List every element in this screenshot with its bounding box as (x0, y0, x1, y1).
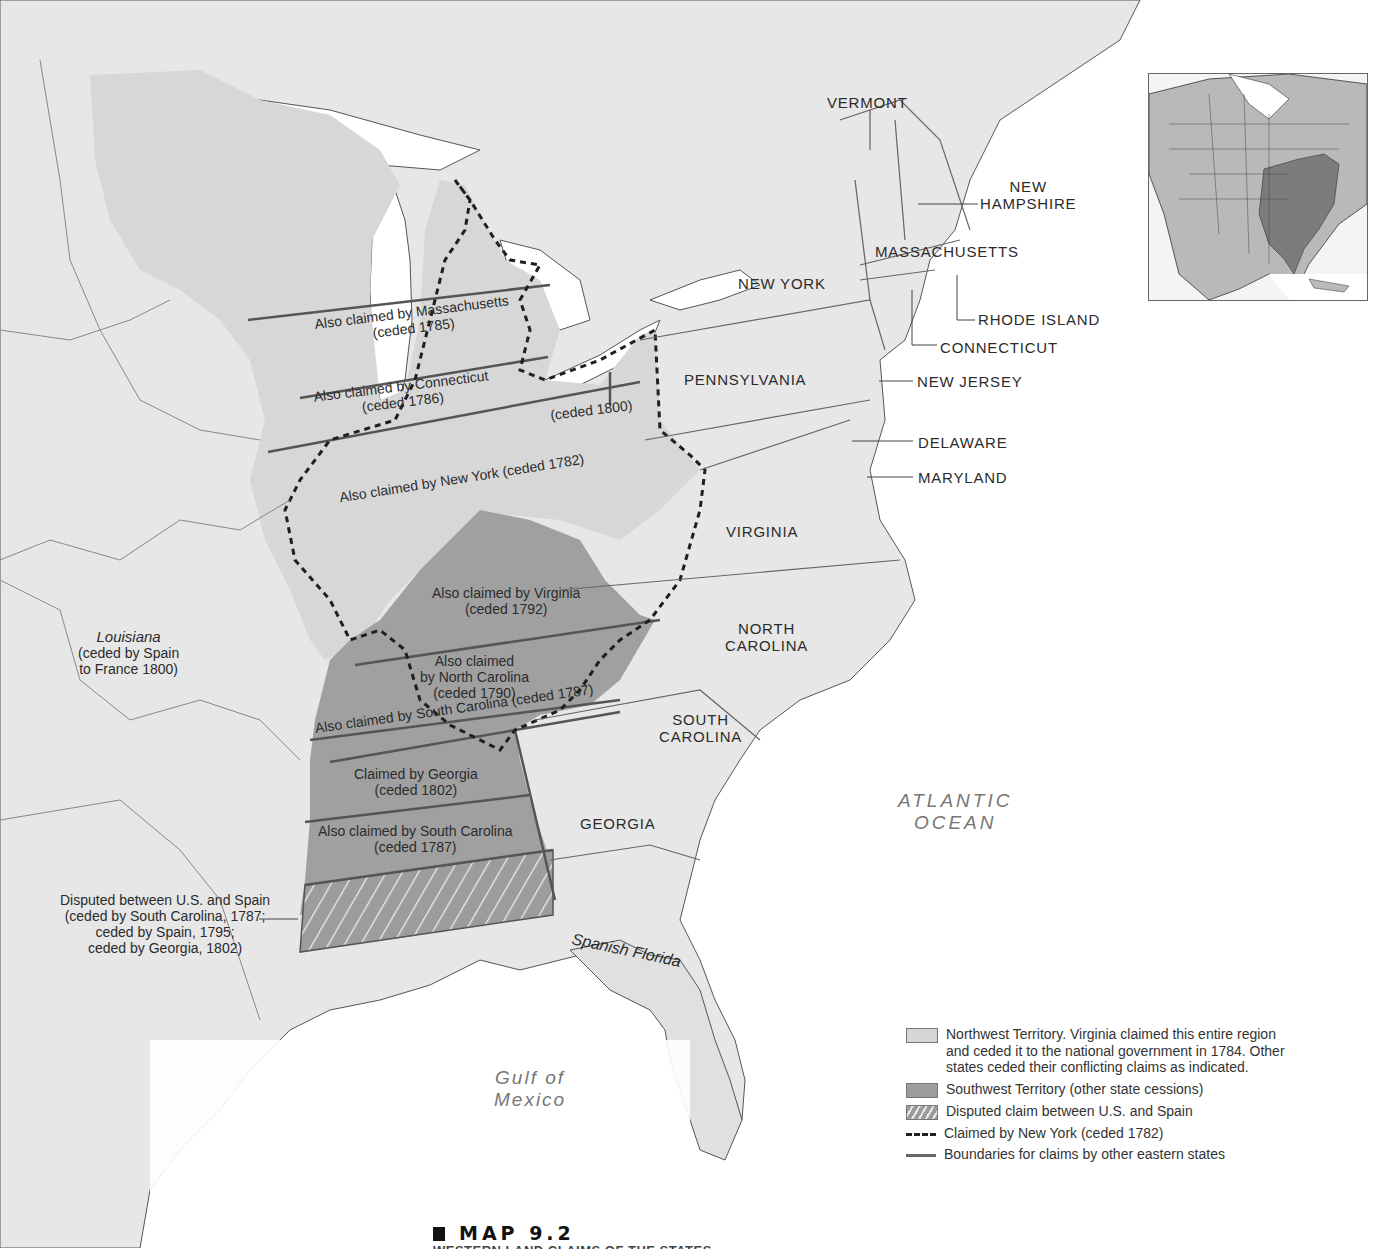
water-label-atlantic: ATLANTIC OCEAN (898, 790, 1012, 834)
atlantic-line2: OCEAN (898, 812, 1012, 834)
state-label-north-carolina: NORTH CAROLINA (725, 620, 808, 655)
atlantic-fade (780, 560, 1387, 1080)
state-label-new-jersey: NEW JERSEY (917, 373, 1023, 390)
state-label-north-carolina-line1: NORTH (725, 620, 808, 637)
louisiana-line3: to France 1800) (78, 661, 179, 677)
claim-north-carolina-line1: Also claimed (420, 653, 529, 669)
legend-text-northwest: Northwest Territory. Virginia claimed th… (946, 1026, 1286, 1076)
legend-text-southwest: Southwest Territory (other state cession… (946, 1081, 1203, 1098)
water-label-gulf: Gulf of Mexico (494, 1067, 566, 1111)
inset-locator-map (1148, 73, 1368, 301)
state-label-massachusetts: MASSACHUSETTS (875, 243, 1019, 260)
state-label-south-carolina-line2: CAROLINA (659, 728, 742, 745)
legend-item-boundaries: Boundaries for claims by other eastern s… (906, 1146, 1286, 1163)
state-label-connecticut: CONNECTICUT (940, 339, 1058, 356)
state-label-new-hampshire-line1: NEW (980, 178, 1076, 195)
region-label-louisiana: Louisiana (ceded by Spain to France 1800… (78, 628, 179, 677)
legend-text-new-york: Claimed by New York (ceded 1782) (944, 1125, 1163, 1142)
map-title-text: MAP 9.2 (459, 1222, 575, 1244)
map-caption-subtitle: WESTERN LAND CLAIMS OF THE STATES (433, 1243, 712, 1249)
gulf-line1: Gulf of (494, 1067, 566, 1089)
legend-item-new-york: Claimed by New York (ceded 1782) (906, 1125, 1286, 1142)
claim-south-carolina-south-line2: (ceded 1787) (318, 839, 513, 855)
state-label-new-hampshire: NEW HAMPSHIRE (980, 178, 1076, 213)
state-label-delaware: DELAWARE (918, 434, 1007, 451)
state-label-virginia: VIRGINIA (726, 523, 798, 540)
claim-label-disputed: Disputed between U.S. and Spain (ceded b… (60, 892, 270, 956)
claim-disputed-line4: ceded by Georgia, 1802) (60, 940, 270, 956)
claim-disputed-line3: ceded by Spain, 1795; (60, 924, 270, 940)
gulf-water (150, 1040, 690, 1248)
state-label-south-carolina: SOUTH CAROLINA (659, 711, 742, 746)
light-gray-swatch-icon (906, 1028, 938, 1043)
claim-north-carolina-line2: by North Carolina (420, 669, 529, 685)
claim-label-south-carolina-south: Also claimed by South Carolina (ceded 17… (318, 823, 513, 855)
state-label-new-hampshire-line2: HAMPSHIRE (980, 195, 1076, 212)
claim-georgia-line2: (ceded 1802) (354, 782, 478, 798)
state-label-vermont: VERMONT (827, 94, 908, 111)
map-legend: Northwest Territory. Virginia claimed th… (906, 1026, 1286, 1168)
state-label-pennsylvania: PENNSYLVANIA (684, 371, 806, 388)
legend-text-boundaries: Boundaries for claims by other eastern s… (944, 1146, 1225, 1163)
legend-item-southwest: Southwest Territory (other state cession… (906, 1081, 1286, 1098)
louisiana-name: Louisiana (78, 628, 179, 645)
map-caption-title: MAP 9.2 (433, 1222, 575, 1244)
dashed-line-icon (906, 1133, 936, 1136)
state-label-maryland: MARYLAND (918, 469, 1007, 486)
claim-georgia-line1: Claimed by Georgia (354, 766, 478, 782)
atlantic-line1: ATLANTIC (898, 790, 1012, 812)
claim-disputed-line2: (ceded by South Carolina, 1787; (60, 908, 270, 924)
claim-label-virginia: Also claimed by Virginia (ceded 1792) (432, 585, 580, 617)
state-label-new-york: NEW YORK (738, 275, 826, 292)
louisiana-line2: (ceded by Spain (78, 645, 179, 661)
claim-virginia-line2: (ceded 1792) (432, 601, 580, 617)
state-label-south-carolina-line1: SOUTH (659, 711, 742, 728)
caption-square-icon (433, 1227, 445, 1241)
state-label-rhode-island: RHODE ISLAND (978, 311, 1100, 328)
inset-map-graphic (1149, 74, 1367, 300)
state-label-georgia: GEORGIA (580, 815, 656, 832)
claim-south-carolina-south-line1: Also claimed by South Carolina (318, 823, 513, 839)
hatched-swatch-icon (906, 1105, 938, 1120)
gulf-line2: Mexico (494, 1089, 566, 1111)
claim-label-georgia: Claimed by Georgia (ceded 1802) (354, 766, 478, 798)
solid-line-icon (906, 1154, 936, 1157)
legend-item-disputed: Disputed claim between U.S. and Spain (906, 1103, 1286, 1120)
dark-gray-swatch-icon (906, 1083, 938, 1098)
claim-virginia-line1: Also claimed by Virginia (432, 585, 580, 601)
legend-text-disputed: Disputed claim between U.S. and Spain (946, 1103, 1193, 1120)
legend-item-northwest: Northwest Territory. Virginia claimed th… (906, 1026, 1286, 1076)
claim-disputed-line1: Disputed between U.S. and Spain (60, 892, 270, 908)
state-label-north-carolina-line2: CAROLINA (725, 637, 808, 654)
